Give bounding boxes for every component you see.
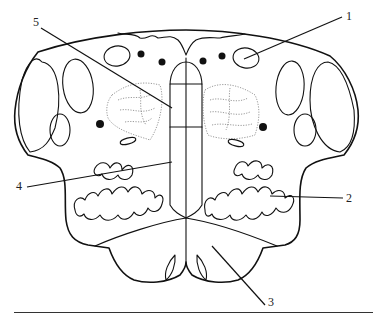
left-base-inner-curve <box>165 255 175 280</box>
label-4: 4 <box>16 180 22 192</box>
right-stippled-region <box>203 85 259 139</box>
left-base-division <box>95 218 186 246</box>
dot-top-right-1 <box>200 58 207 65</box>
right-base-inner-curve <box>197 255 207 280</box>
right-oval-upper <box>274 60 307 116</box>
leader-line-5 <box>41 28 172 108</box>
right-oval-lower <box>294 114 316 146</box>
right-small-oval <box>227 138 244 148</box>
leader-line-2 <box>270 196 343 198</box>
label-3: 3 <box>268 296 274 308</box>
top-inner-contour <box>118 33 245 55</box>
label-2: 2 <box>346 192 352 204</box>
leader-line-3 <box>212 246 265 305</box>
left-upper-gyri <box>94 163 133 180</box>
right-base-division <box>186 218 277 246</box>
left-stippled-region <box>107 83 162 140</box>
label-1: 1 <box>346 10 352 22</box>
leader-line-4 <box>27 162 172 187</box>
dot-top-right-2 <box>219 53 226 60</box>
left-small-oval <box>119 136 136 146</box>
right-upper-gyri <box>234 161 273 180</box>
left-top-oval <box>102 44 131 68</box>
left-outer-lobe <box>19 59 59 152</box>
figure-baseline-rule <box>14 312 373 313</box>
left-oval-upper <box>59 57 96 115</box>
dot-left-middle <box>96 120 104 128</box>
label-5: 5 <box>33 16 39 28</box>
right-convoluted-structure <box>205 187 294 220</box>
left-oval-lower <box>50 114 70 146</box>
cross-section-diagram <box>0 0 373 324</box>
dot-top-left-2 <box>159 59 166 66</box>
right-outer-lobe <box>310 62 354 152</box>
dot-top-left-1 <box>138 51 145 58</box>
left-convoluted-structure <box>74 187 163 220</box>
dot-right-middle <box>259 123 267 131</box>
leader-line-1 <box>244 17 342 59</box>
